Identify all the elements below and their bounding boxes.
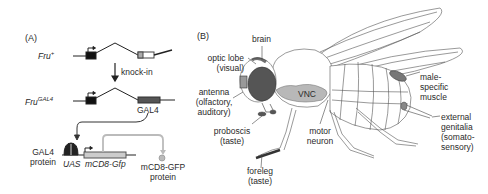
label-line: mCD8-GFP — [140, 162, 186, 172]
gfp-protein-dot — [159, 155, 165, 161]
gene-name: Fru — [38, 51, 51, 61]
vnc-label: VNC — [298, 89, 316, 99]
label-line: specific — [420, 82, 448, 92]
label-line: protein — [140, 172, 186, 182]
motor-neuron-label: motor neuron — [300, 126, 340, 146]
label-line: external — [441, 112, 475, 122]
label-line: proboscis — [210, 126, 254, 136]
optic-lobe-label: optic lobe (visual) — [196, 53, 244, 73]
panel-b-label: (B) — [197, 31, 209, 41]
label-line: (taste) — [240, 176, 280, 186]
gal4-protein-label: GAL4 protein — [28, 147, 58, 167]
brain-label: brain — [252, 34, 271, 44]
fru-gal4-gene — [73, 88, 175, 104]
uas-label: UAS — [63, 159, 80, 169]
label-line: protein — [28, 157, 58, 167]
label-line: genitalia — [441, 122, 475, 132]
foreleg-label: foreleg (taste) — [240, 166, 280, 186]
label-line: neuron — [300, 136, 340, 146]
proboscis-label: proboscis (taste) — [210, 126, 254, 146]
label-line: antenna — [192, 87, 236, 97]
uas-construct — [62, 143, 136, 158]
knock-in-label: knock-in — [121, 67, 153, 77]
label-line: (taste) — [210, 136, 254, 146]
knock-in-arrow — [112, 63, 118, 81]
panel-a-label: (A) — [25, 33, 37, 43]
external-genitalia-label: external genitalia (somato- sensory) — [441, 112, 475, 152]
male-specific-muscle-label: male- specific muscle — [420, 72, 448, 102]
label-line: muscle — [420, 92, 448, 102]
fru-plus-label: Fru+ — [38, 51, 54, 61]
label-line: male- — [420, 72, 448, 82]
label-line: (somato- — [441, 132, 475, 142]
label-line: auditory) — [192, 107, 236, 117]
gal4-to-uas-arrow — [75, 113, 149, 140]
label-line: GAL4 — [28, 147, 58, 157]
allele-superscript: GAL4 — [38, 96, 53, 102]
gal4-exon-label: GAL4 — [137, 105, 159, 115]
label-line: sensory) — [441, 142, 475, 152]
gene-name: Fru — [25, 97, 38, 107]
mcd8-gfp-gene-label: mCD8-Gfp — [85, 159, 126, 169]
fru-gal4-label: FruGAL4 — [25, 97, 53, 107]
fru-plus-gene — [73, 43, 172, 59]
label-line: motor — [300, 126, 340, 136]
allele-superscript: + — [51, 50, 55, 56]
label-line: foreleg — [240, 166, 280, 176]
mcd8-gfp-protein-label: mCD8-GFP protein — [140, 162, 186, 182]
antenna-label: antenna (olfactory, auditory) — [192, 87, 236, 117]
label-line: (visual) — [196, 63, 244, 73]
label-line: optic lobe — [196, 53, 244, 63]
label-line: (olfactory, — [192, 97, 236, 107]
